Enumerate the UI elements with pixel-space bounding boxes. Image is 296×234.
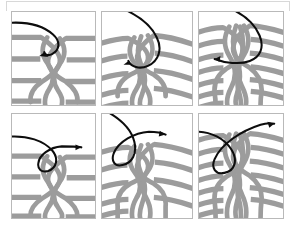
panel-2 bbox=[101, 11, 193, 106]
panel-3 bbox=[198, 11, 284, 106]
panel-grid bbox=[0, 0, 296, 234]
panel-6 bbox=[198, 113, 284, 219]
panel-1 bbox=[11, 11, 96, 106]
panel-4 bbox=[11, 113, 96, 219]
panel-5 bbox=[101, 113, 193, 219]
braid-column bbox=[30, 37, 77, 105]
